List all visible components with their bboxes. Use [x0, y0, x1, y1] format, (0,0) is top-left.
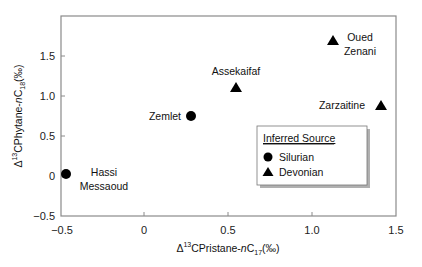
y-tick-label: 0.5	[40, 130, 55, 142]
triangle-marker-assekaifaf	[230, 82, 242, 92]
point-label-zenani: Zenani	[344, 45, 376, 57]
legend-label-devonian: Devonian	[279, 166, 324, 178]
triangle-marker-oued-zenani	[327, 35, 339, 45]
x-tick-label: 1.5	[388, 224, 403, 236]
y-tick-label: 0	[49, 170, 55, 182]
scatter-chart: −0.5 0 0.5 1.0 1.5 −0.5 0 0.5 1.0 1.5 Δ1…	[0, 0, 422, 267]
point-label-zemlet: Zemlet	[149, 110, 181, 122]
y-tick-label: 1.5	[40, 50, 55, 62]
point-label-oued: Oued	[347, 31, 373, 43]
legend-label-silurian: Silurian	[279, 151, 314, 163]
point-label-messaoud: Messaoud	[80, 180, 129, 192]
circle-marker-zemlet	[186, 111, 196, 121]
y-tick-label: −0.5	[33, 210, 55, 222]
circle-marker-hassi-messaoud	[61, 169, 71, 179]
legend-title: Inferred Source	[263, 132, 336, 144]
x-tick-label: 0.5	[220, 224, 235, 236]
point-label-zarzaitine: Zarzaitine	[319, 99, 365, 111]
y-axis-title: Δ13CPhytane-nC18(‰)	[11, 64, 26, 167]
y-axis: −0.5 0 0.5 1.0 1.5	[33, 50, 65, 222]
x-tick-label: −0.5	[51, 224, 73, 236]
x-axis-title: Δ13CPristane-nC17(‰)	[176, 241, 279, 256]
x-tick-label: 1.0	[304, 224, 319, 236]
point-label-assekaifaf: Assekaifaf	[212, 65, 261, 77]
point-label-hassi: Hassi	[91, 166, 117, 178]
y-tick-label: 1.0	[40, 90, 55, 102]
legend-circle-icon	[264, 153, 273, 162]
legend: Inferred Source Silurian Devonian	[257, 126, 370, 188]
triangle-marker-zarzaitine	[375, 100, 387, 110]
x-tick-label: 0	[141, 224, 147, 236]
